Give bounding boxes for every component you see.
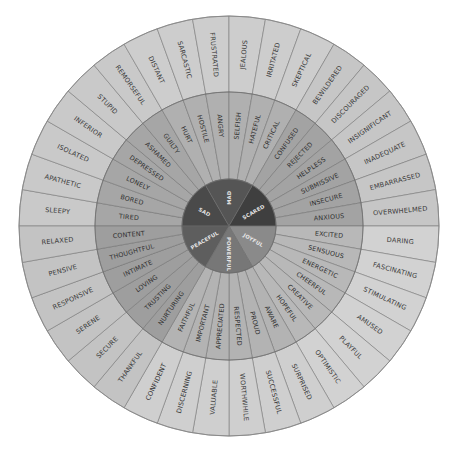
core-label-mad: MAD <box>226 190 232 205</box>
core-label-powerful: POWERFUL <box>226 237 232 272</box>
feeling-wheel: SADTIREDBOREDLONELYDEPRESSEDASHAMEDGUILT… <box>0 0 459 451</box>
